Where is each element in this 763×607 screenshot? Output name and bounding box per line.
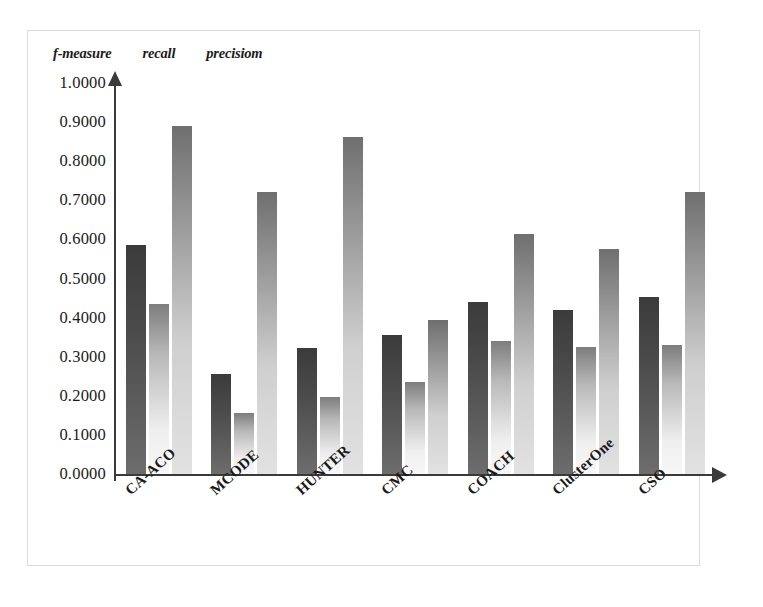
y-tick-label: 0.8000 bbox=[59, 151, 106, 171]
bar-f-measure-cmc[interactable] bbox=[382, 335, 402, 474]
bar-group bbox=[287, 83, 372, 474]
legend-item-recall[interactable]: recall bbox=[126, 45, 176, 62]
y-tick-label: 0.1000 bbox=[59, 425, 106, 445]
chart-figure: f-measure recall precisiom 1.00000.90000… bbox=[27, 30, 700, 566]
x-axis-category-labels: CA-ACOMCODEHUNTERCMCCOACHClusterOneCSO bbox=[116, 478, 714, 588]
legend-label-precision: precisiom bbox=[206, 45, 262, 62]
bar-group bbox=[543, 83, 628, 474]
bar-f-measure-cso[interactable] bbox=[639, 297, 659, 474]
y-tick-label: 0.3000 bbox=[59, 347, 106, 367]
legend-label-recall: recall bbox=[143, 45, 176, 62]
y-tick-label: 0.9000 bbox=[59, 112, 106, 132]
y-tick-label: 0.5000 bbox=[59, 269, 106, 289]
bar-group bbox=[372, 83, 457, 474]
bar-group bbox=[201, 83, 286, 474]
bar-f-measure-ca-aco[interactable] bbox=[126, 245, 146, 474]
bar-f-measure-clusterone[interactable] bbox=[553, 310, 573, 474]
y-tick-label: 0.4000 bbox=[59, 308, 106, 328]
y-tick-label: 0.6000 bbox=[59, 229, 106, 249]
bar-precisiom-cmc[interactable] bbox=[428, 320, 448, 474]
bar-recall-cso[interactable] bbox=[662, 345, 682, 474]
series-2-swatch bbox=[189, 48, 201, 60]
bar-group bbox=[629, 83, 714, 474]
bar-precisiom-ca-aco[interactable] bbox=[172, 126, 192, 474]
bar-f-measure-hunter[interactable] bbox=[297, 348, 317, 474]
bar-precisiom-coach[interactable] bbox=[514, 234, 534, 474]
bar-precisiom-mcode[interactable] bbox=[257, 192, 277, 474]
legend-item-precision[interactable]: precisiom bbox=[189, 45, 262, 62]
y-axis-tick-labels: 1.00000.90000.80000.70000.60000.50000.40… bbox=[28, 31, 106, 476]
bar-f-measure-coach[interactable] bbox=[468, 302, 488, 474]
bar-recall-cmc[interactable] bbox=[405, 382, 425, 474]
y-tick-label: 1.0000 bbox=[59, 73, 106, 93]
bar-precisiom-cso[interactable] bbox=[685, 192, 705, 474]
series-1-swatch bbox=[126, 48, 138, 60]
y-tick-label: 0.7000 bbox=[59, 190, 106, 210]
y-tick-label: 0.0000 bbox=[59, 464, 106, 484]
bar-groups bbox=[116, 83, 714, 474]
y-tick-label: 0.2000 bbox=[59, 386, 106, 406]
bar-f-measure-mcode[interactable] bbox=[211, 374, 231, 474]
bar-group bbox=[116, 83, 201, 474]
bar-group bbox=[458, 83, 543, 474]
x-axis-arrow-icon bbox=[712, 467, 727, 483]
bar-precisiom-hunter[interactable] bbox=[343, 137, 363, 474]
